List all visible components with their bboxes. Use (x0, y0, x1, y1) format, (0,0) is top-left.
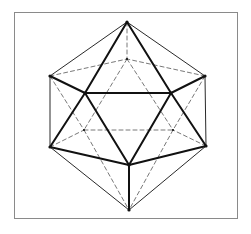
front-edge (129, 93, 171, 165)
hidden-edge (129, 130, 173, 210)
front-edge (85, 93, 129, 165)
vertex-r (203, 74, 206, 77)
front-edge (171, 93, 206, 146)
vertex-rl (204, 144, 207, 147)
vertex-t (125, 20, 128, 23)
outline-edge (50, 22, 127, 76)
outline-edge (205, 76, 206, 146)
hidden-edge (84, 130, 129, 210)
icosahedron-diagram (0, 0, 251, 234)
hidden-edge (127, 59, 173, 130)
vertex-l (48, 74, 51, 77)
vertex-fr (169, 91, 172, 94)
vertex-ll (48, 145, 51, 148)
front-edge (50, 93, 85, 147)
front-edge (127, 22, 171, 93)
hidden-edge (84, 59, 127, 130)
front-edges (50, 22, 206, 210)
front-edge (85, 22, 127, 93)
vertex-fb (127, 163, 130, 166)
vertex-bt (126, 58, 128, 60)
figure-frame (15, 13, 238, 219)
vertex-b (127, 208, 130, 211)
vertex-br (172, 129, 174, 131)
vertex-fl (83, 91, 86, 94)
icosahedron-figure (0, 0, 251, 234)
vertex-bl (83, 129, 85, 131)
outline-edge (127, 22, 205, 76)
